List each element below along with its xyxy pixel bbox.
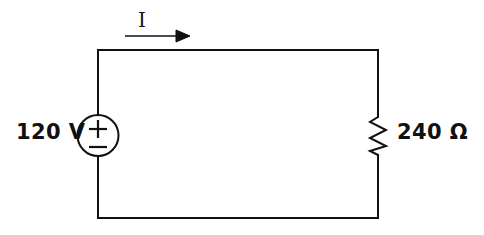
plus-sign-icon — [89, 120, 107, 138]
resistor-zigzag-icon — [370, 117, 386, 155]
current-label: I — [138, 10, 146, 30]
voltage-source-value-label: 120 V — [16, 122, 85, 143]
current-arrow-head-icon — [176, 30, 190, 42]
circuit-schematic-canvas — [0, 0, 484, 235]
resistor-value-label: 240 Ω — [397, 122, 468, 143]
circuit-diagram: 120 V 240 Ω I — [0, 0, 484, 235]
